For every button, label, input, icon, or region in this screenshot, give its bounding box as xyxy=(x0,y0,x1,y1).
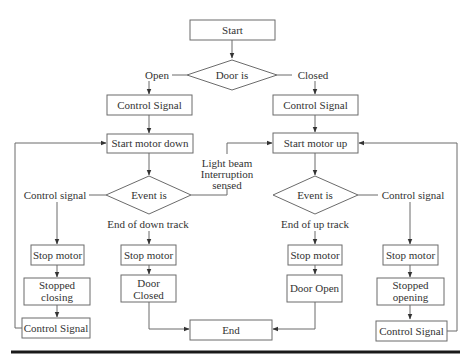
start-label: Start xyxy=(222,24,243,36)
start-motor-up-label: Start motor up xyxy=(284,137,348,149)
control-signal-branch-right: Control signal xyxy=(382,189,445,201)
arrow-door-open-to-end xyxy=(273,302,315,329)
stopped-closing-line2: closing xyxy=(41,291,73,303)
start-motor-down-node: Start motor down xyxy=(107,134,193,153)
control-signal-left-node: Control Signal xyxy=(107,95,192,115)
control-signal-right-label: Control Signal xyxy=(283,99,347,111)
door-closed-node: Door Closed xyxy=(121,275,176,302)
event-is-left-label: Event is xyxy=(131,189,167,201)
arrow-door-closed-to-end xyxy=(149,302,189,329)
start-motor-down-label: Start motor down xyxy=(112,137,189,149)
stop-motor-right-inner-node: Stop motor xyxy=(288,245,342,265)
control-signal-bottom-right-label: Control Signal xyxy=(379,325,443,337)
stopped-opening-line2: opening xyxy=(393,291,429,303)
stop-motor-left-inner-node: Stop motor xyxy=(121,245,176,265)
stop-motor-right-outer-label: Stop motor xyxy=(386,249,436,261)
stopped-opening-node: Stopped opening xyxy=(377,278,444,305)
control-signal-right-node: Control Signal xyxy=(273,95,358,115)
control-signal-bottom-right-node: Control Signal xyxy=(376,321,447,341)
stop-motor-left-inner-label: Stop motor xyxy=(124,249,174,261)
closed-branch-label: Closed xyxy=(298,69,329,81)
flowchart-svg: Start Door is Open Closed Control Signal… xyxy=(0,0,475,357)
stopped-closing-node: Stopped closing xyxy=(24,278,90,305)
stopped-opening-line1: Stopped xyxy=(392,279,429,291)
start-motor-up-node: Start motor up xyxy=(273,133,358,153)
door-open-label: Door Open xyxy=(290,282,340,294)
start-node: Start xyxy=(190,20,275,40)
end-node: End xyxy=(190,320,272,340)
event-is-right-label: Event is xyxy=(297,189,333,201)
stop-motor-right-inner-label: Stop motor xyxy=(290,249,340,261)
end-label: End xyxy=(222,324,240,336)
stop-motor-left-outer-node: Stop motor xyxy=(31,245,84,265)
control-signal-bottom-left-label: Control Signal xyxy=(24,322,88,334)
door-closed-line2: Closed xyxy=(133,289,164,301)
door-is-label: Door is xyxy=(216,69,249,81)
control-signal-bottom-left-node: Control Signal xyxy=(22,318,90,338)
event-is-right-decision: Event is xyxy=(273,176,358,214)
flowchart-canvas: Start Door is Open Closed Control Signal… xyxy=(0,0,475,357)
open-branch-label: Open xyxy=(145,69,169,81)
stop-motor-left-outer-label: Stop motor xyxy=(33,249,83,261)
stopped-closing-line1: Stopped xyxy=(39,279,76,291)
arrow-lightbeam-to-motor-up xyxy=(227,143,272,154)
end-of-down-track-label: End of down track xyxy=(107,218,189,230)
door-is-decision: Door is xyxy=(187,60,277,90)
event-is-left-decision: Event is xyxy=(106,176,191,214)
door-closed-line1: Door xyxy=(137,277,160,289)
stop-motor-right-outer-node: Stop motor xyxy=(383,245,438,265)
door-open-node: Door Open xyxy=(287,275,342,302)
control-signal-left-label: Control Signal xyxy=(117,99,181,111)
light-beam-line3: sensed xyxy=(212,179,242,191)
end-of-up-track-label: End of up track xyxy=(281,218,350,230)
control-signal-branch-left: Control signal xyxy=(24,189,87,201)
